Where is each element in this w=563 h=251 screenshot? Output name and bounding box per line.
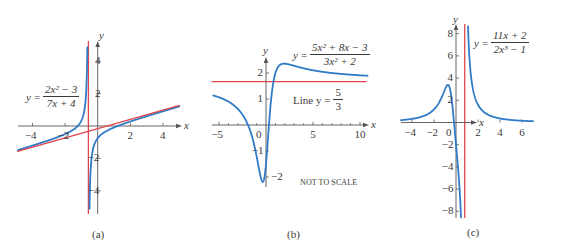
x-tick-label: −2 [426,127,438,138]
y-tick-label: 8 [447,28,453,39]
formula-denominator: 7x + 4 [45,97,78,109]
formula-lhs: y [26,91,31,103]
y-tick-label: 2 [257,67,263,78]
chart-a-y-axis-label: y [99,30,104,41]
y-axis-arrow-icon [264,57,269,63]
y-tick-label: 2 [95,88,101,99]
x-axis-arrow-icon [176,124,182,129]
figure-stage: y = 2x² − 3 7x + 4 (a) x y −4−224−4−224 … [0,0,563,251]
x-tick-label: −4 [25,130,37,141]
y-tick-label: −2 [271,171,283,182]
oblique-asymptote-line [18,106,179,152]
formula-equals: = [301,49,307,61]
chart-a-formula: y = 2x² − 3 7x + 4 [26,84,79,109]
y-tick-label: 1 [257,93,263,104]
chart-b-caption: (b) [287,228,300,240]
formula-fraction: 2x² − 3 7x + 4 [43,84,79,109]
y-tick-label: −8 [442,205,454,216]
y-tick-label: −4 [88,185,100,196]
x-tick-label: −4 [404,127,416,138]
y-axis-arrow-icon [95,41,100,47]
formula-lhs: y [293,49,298,61]
annotation-fraction: 5 3 [333,87,343,112]
x-tick-label: 4 [497,127,503,138]
x-tick-label: 6 [519,127,525,138]
formula-fraction: 11x + 2 2x³ − 1 [491,30,529,55]
y-tick-label: −4 [442,161,454,172]
chart-b-not-to-scale-note: NOT TO SCALE [300,178,357,187]
annotation-numerator: 5 [333,87,343,100]
formula-equals: = [34,91,40,103]
chart-c-y-axis-label: y [453,14,458,25]
chart-a-x-axis-label: x [184,120,189,131]
chart-b-formula: y = 5x² + 8x − 3 3x² + 2 [293,42,370,67]
chart-a-caption: (a) [92,228,104,240]
x-tick-label: 2 [475,127,481,138]
annotation-prefix: Line y = [293,94,330,106]
chart-b-asymptote-annotation: Line y = 5 3 [293,87,343,112]
y-tick-label: 2 [447,94,453,105]
chart-b-graphics [211,57,369,187]
chart-c-caption: (c) [467,226,479,238]
x-tick-label: 0 [446,127,452,138]
y-tick-label: −6 [442,183,454,194]
chart-c-formula: y = 11x + 2 2x³ − 1 [474,30,529,55]
formula-denominator: 3x² + 2 [322,55,358,67]
x-axis-arrow-icon [363,123,369,128]
chart-b-x-axis-label: x [371,119,376,130]
y-tick-label: −1 [252,145,264,156]
annotation-denominator: 3 [333,100,343,112]
formula-fraction: 5x² + 8x − 3 3x² + 2 [310,42,369,67]
x-tick-label: 0 [256,129,262,140]
x-tick-label: 10 [354,129,365,140]
formula-numerator: 5x² + 8x − 3 [310,42,369,55]
formula-numerator: 11x + 2 [491,30,529,43]
y-tick-label: −2 [442,139,454,150]
y-tick-label: 4 [447,72,453,83]
chart-b-y-axis-label: y [263,45,268,56]
chart-a-graphics [18,41,182,214]
formula-equals: = [482,37,488,49]
y-tick-label: 4 [95,55,101,66]
x-tick-label: 5 [310,129,316,140]
x-tick-label: 4 [160,130,166,141]
x-tick-label: −2 [58,130,70,141]
formula-numerator: 2x² − 3 [43,84,79,97]
x-axis-arrow-icon [471,120,477,125]
x-tick-label: −5 [211,129,223,140]
formula-denominator: 2x³ − 1 [492,43,528,55]
y-tick-label: −2 [88,152,100,163]
x-tick-label: 2 [128,130,134,141]
formula-lhs: y [474,37,479,49]
y-tick-label: 6 [447,50,453,61]
